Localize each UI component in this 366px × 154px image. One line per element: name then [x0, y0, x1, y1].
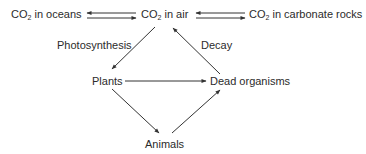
arrows-layer: [0, 0, 366, 154]
arrow-decay: [173, 28, 220, 74]
node-co2-oceans-suffix: in oceans: [31, 8, 81, 20]
edge-label-photosynthesis: Photosynthesis: [57, 39, 132, 51]
edge-label-decay: Decay: [201, 39, 232, 51]
node-animals: Animals: [145, 138, 184, 150]
node-co2-oceans-prefix: CO: [11, 8, 28, 20]
node-co2-air-suffix: in air: [161, 8, 188, 20]
arrow-plants-to-animals: [112, 89, 159, 133]
node-co2-rocks-prefix: CO: [249, 8, 266, 20]
node-dead-organisms: Dead organisms: [210, 75, 290, 87]
node-co2-air-prefix: CO: [141, 8, 158, 20]
node-plants: Plants: [92, 75, 123, 87]
node-co2-oceans: CO2 in oceans: [11, 8, 82, 20]
arrow-animals-to-dead: [172, 90, 220, 133]
node-co2-rocks-suffix: in carbonate rocks: [269, 8, 362, 20]
node-co2-air: CO2 in air: [141, 8, 188, 20]
node-co2-rocks: CO2 in carbonate rocks: [249, 8, 362, 20]
